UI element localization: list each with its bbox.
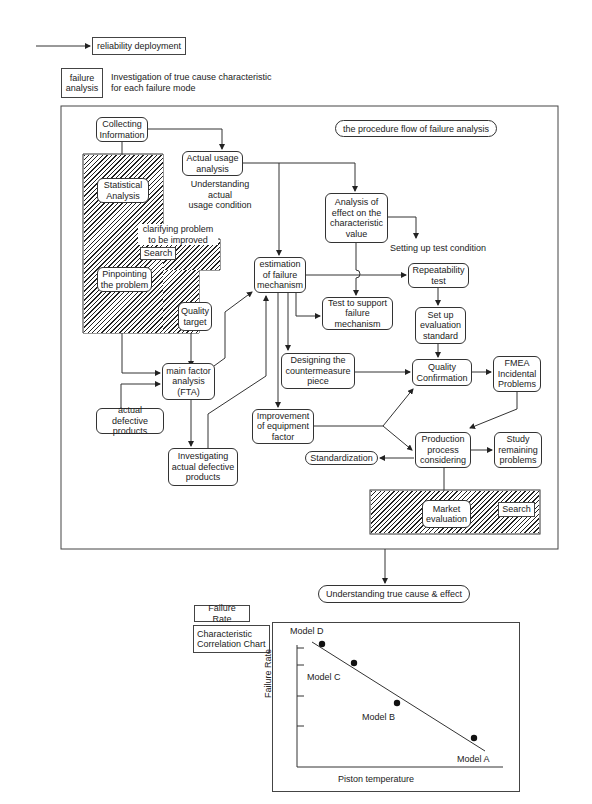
chart-x-label: Piston temperature: [338, 774, 414, 785]
chart-plot: [0, 0, 592, 804]
point-model-b: [394, 700, 400, 706]
label-model-d: Model D: [290, 626, 324, 637]
label-model-b: Model B: [362, 712, 395, 723]
point-model-d: [319, 641, 325, 647]
point-model-a: [471, 735, 477, 741]
chart-y-label: Failure Rate: [263, 638, 274, 698]
trend-line: [312, 642, 485, 751]
label-model-a: Model A: [457, 754, 490, 765]
point-model-c: [351, 660, 357, 666]
label-model-c: Model C: [307, 672, 341, 683]
